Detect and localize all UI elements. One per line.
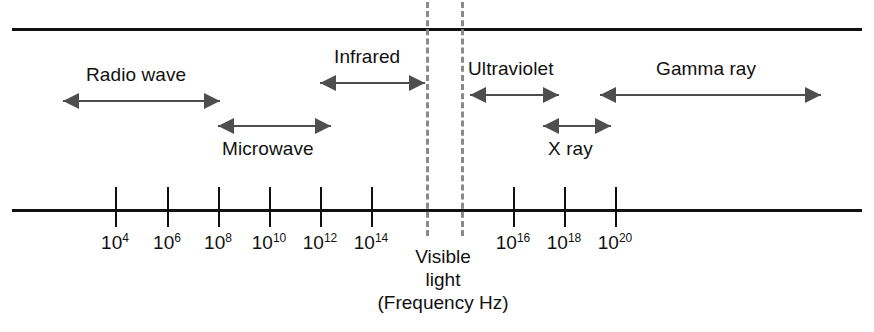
axis-tick xyxy=(218,187,220,227)
arrow-head-right-icon xyxy=(409,75,425,91)
arrow-head-left-icon xyxy=(218,118,234,134)
axis-tick-label: 104 xyxy=(101,232,129,254)
axis-tick xyxy=(320,187,322,227)
arrow-head-left-icon xyxy=(600,87,616,103)
band-label: Gamma ray xyxy=(656,58,756,80)
band-arrow xyxy=(320,75,425,91)
arrow-head-left-icon xyxy=(543,118,559,134)
tick-mantissa: 10 xyxy=(101,232,122,253)
arrow-shaft xyxy=(600,94,821,96)
axis-tick-label: 108 xyxy=(204,232,232,254)
tick-mantissa: 10 xyxy=(354,232,375,253)
top-horizontal-rule xyxy=(12,28,862,31)
arrow-head-left-icon xyxy=(63,93,79,109)
tick-exponent: 10 xyxy=(273,231,286,245)
arrow-head-right-icon xyxy=(204,93,220,109)
tick-exponent: 4 xyxy=(122,231,129,245)
band-arrow xyxy=(470,87,559,103)
tick-mantissa: 10 xyxy=(204,232,225,253)
arrow-shaft xyxy=(63,100,220,102)
tick-exponent: 16 xyxy=(517,231,530,245)
tick-mantissa: 10 xyxy=(303,232,324,253)
visible-light-left-dashed-line xyxy=(426,2,429,236)
axis-tick xyxy=(513,187,515,227)
band-label: Radio wave xyxy=(86,64,186,86)
tick-exponent: 18 xyxy=(568,231,581,245)
band-label: Ultraviolet xyxy=(468,58,554,80)
axis-tick xyxy=(371,187,373,227)
arrow-head-right-icon xyxy=(595,118,611,134)
tick-mantissa: 10 xyxy=(598,232,619,253)
tick-exponent: 8 xyxy=(225,231,232,245)
arrow-head-right-icon xyxy=(315,118,331,134)
axis-tick xyxy=(564,187,566,227)
axis-tick-label: 1012 xyxy=(303,232,338,254)
tick-mantissa: 10 xyxy=(547,232,568,253)
axis-tick xyxy=(115,187,117,227)
arrow-head-left-icon xyxy=(470,87,486,103)
band-arrow xyxy=(600,87,821,103)
visible-caption-line-3: (Frequency Hz) xyxy=(378,291,509,314)
axis-tick-label: 1018 xyxy=(547,232,582,254)
tick-exponent: 12 xyxy=(324,231,337,245)
tick-exponent: 6 xyxy=(174,231,181,245)
axis-tick xyxy=(269,187,271,227)
visible-light-caption: Visible light (Frequency Hz) xyxy=(378,245,509,315)
electromagnetic-spectrum-figure: Radio waveMicrowaveInfraredUltravioletX … xyxy=(0,0,874,332)
arrow-head-right-icon xyxy=(805,87,821,103)
band-label: Microwave xyxy=(222,138,314,160)
tick-exponent: 14 xyxy=(375,231,388,245)
bottom-axis-rule xyxy=(12,209,862,212)
band-label: Infrared xyxy=(334,46,400,68)
axis-tick-label: 106 xyxy=(153,232,181,254)
arrow-head-left-icon xyxy=(320,75,336,91)
band-label: X ray xyxy=(548,138,593,160)
tick-exponent: 20 xyxy=(619,231,632,245)
arrow-head-right-icon xyxy=(543,87,559,103)
axis-tick xyxy=(167,187,169,227)
visible-caption-line-2: light xyxy=(378,268,509,291)
axis-tick xyxy=(615,187,617,227)
band-arrow xyxy=(218,118,331,134)
tick-mantissa: 10 xyxy=(153,232,174,253)
band-arrow xyxy=(63,93,220,109)
visible-light-right-dashed-line xyxy=(461,2,464,236)
band-arrow xyxy=(543,118,611,134)
visible-caption-line-1: Visible xyxy=(378,245,509,268)
axis-tick-label: 1020 xyxy=(598,232,633,254)
axis-tick-label: 1010 xyxy=(252,232,287,254)
tick-mantissa: 10 xyxy=(252,232,273,253)
